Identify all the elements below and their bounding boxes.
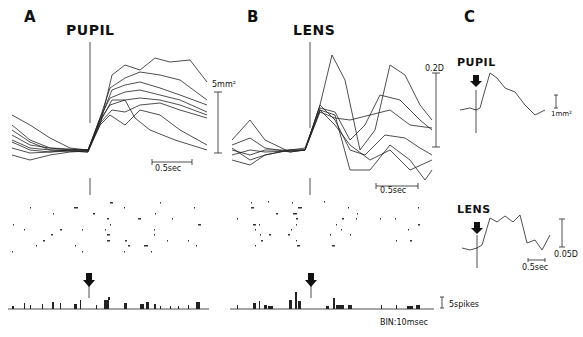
panel-c-pupil-trace [460,73,545,115]
panel-c-lens-trace [462,215,550,250]
panel-c-lens-arrow-icon [471,222,483,234]
figure-graphics [0,0,583,337]
psth-b-stimulus-arrow-icon [305,273,317,287]
raster-a [12,202,201,253]
psth-a-stimulus-arrow-icon [83,273,95,287]
raster-b [237,201,420,247]
panel-c-pupil-arrow-icon [470,75,482,87]
